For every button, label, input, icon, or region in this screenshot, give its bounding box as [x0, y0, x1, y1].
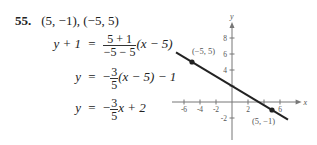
data-point: [269, 107, 274, 112]
x-tick-label: -2: [213, 105, 219, 114]
point-label: (−5, 5): [192, 46, 215, 56]
y-tick-label: 8: [223, 34, 227, 43]
axes: xy: [172, 12, 308, 140]
y-tick-label: 6: [223, 50, 227, 59]
y-axis-arrow: [230, 22, 235, 28]
point-label: (5, −1): [252, 116, 275, 126]
data-point: [189, 59, 194, 64]
y-axis-label: y: [229, 12, 234, 21]
x-axis-arrow: [296, 100, 302, 105]
x-tick-label: 2: [246, 105, 250, 114]
x-tick-label: -4: [197, 105, 203, 114]
y-tick-label: -2: [221, 114, 227, 123]
x-tick-label: -6: [181, 105, 187, 114]
x-axis-label: x: [303, 98, 308, 107]
line-graph: xy -6-4-226-2468 (−5, 5)(5, −1): [0, 0, 317, 145]
y-tick-label: 4: [223, 66, 227, 75]
x-tick-label: 6: [278, 105, 282, 114]
